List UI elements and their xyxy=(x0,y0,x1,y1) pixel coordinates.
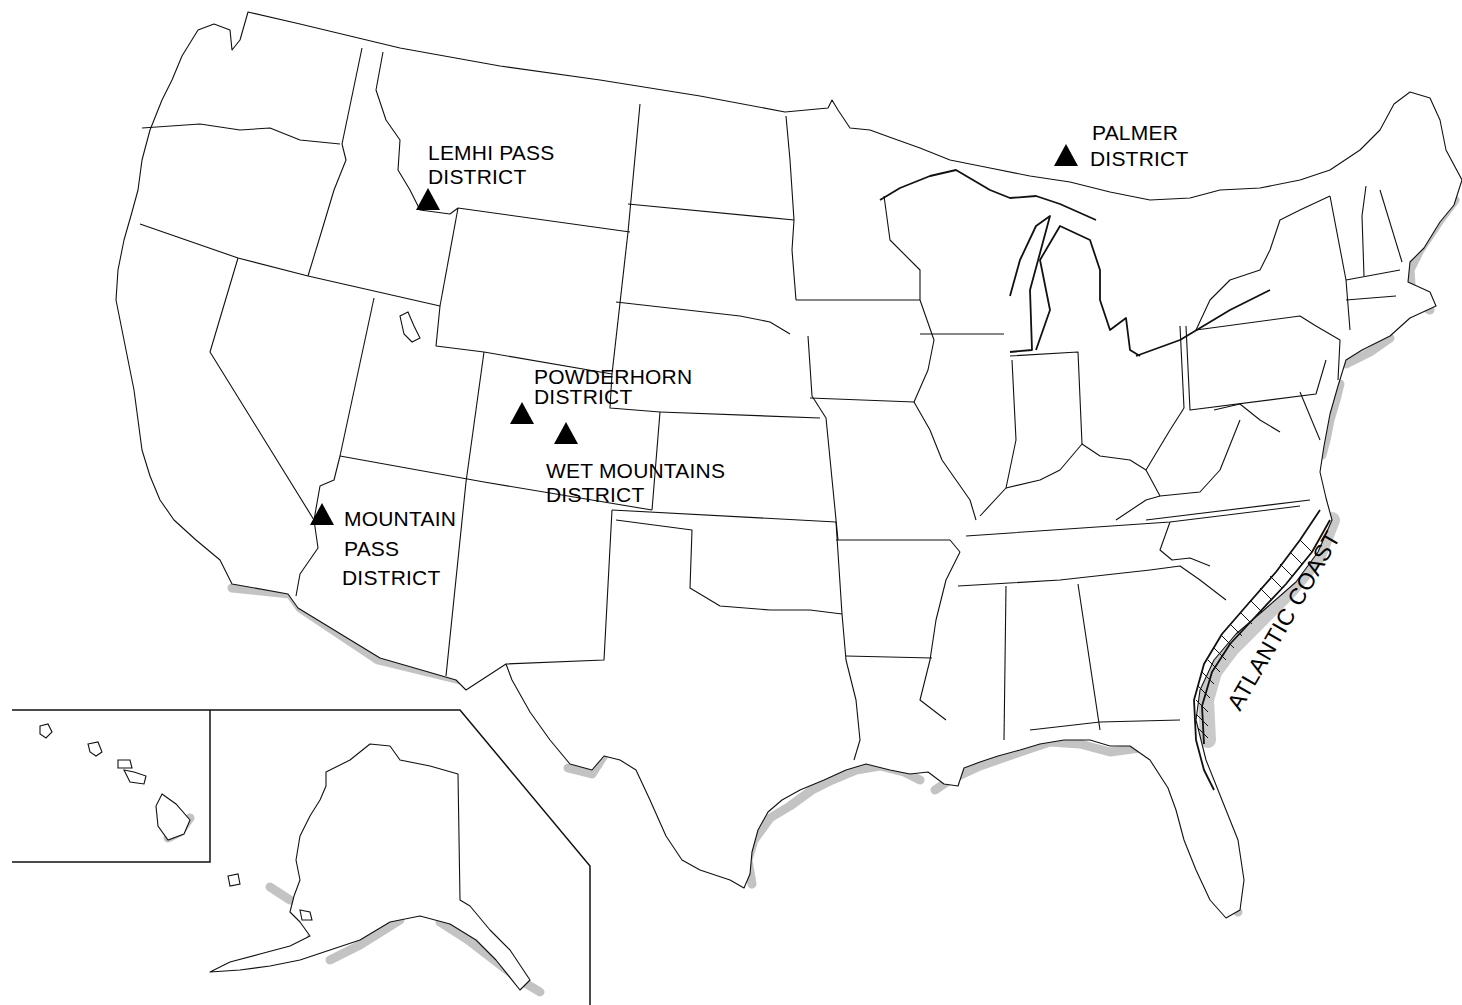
svg-text:DISTRICT: DISTRICT xyxy=(428,165,526,188)
us-map: LEMHI PASS DISTRICT PALMER DISTRICT POWD… xyxy=(0,0,1462,1005)
svg-text:DISTRICT: DISTRICT xyxy=(1090,147,1188,170)
svg-text:PASS: PASS xyxy=(344,537,399,560)
triangle-marker-icon xyxy=(1054,144,1078,166)
svg-text:MOUNTAIN: MOUNTAIN xyxy=(344,507,456,530)
svg-text:DISTRICT: DISTRICT xyxy=(534,385,632,408)
district-palmer: PALMER DISTRICT xyxy=(1054,121,1188,170)
svg-text:PALMER: PALMER xyxy=(1092,121,1178,144)
svg-text:LEMHI PASS: LEMHI PASS xyxy=(428,141,554,164)
svg-text:DISTRICT: DISTRICT xyxy=(546,483,644,506)
svg-text:WET MOUNTAINS: WET MOUNTAINS xyxy=(546,459,725,482)
hawaii-inset xyxy=(40,724,190,840)
svg-text:DISTRICT: DISTRICT xyxy=(342,566,440,589)
